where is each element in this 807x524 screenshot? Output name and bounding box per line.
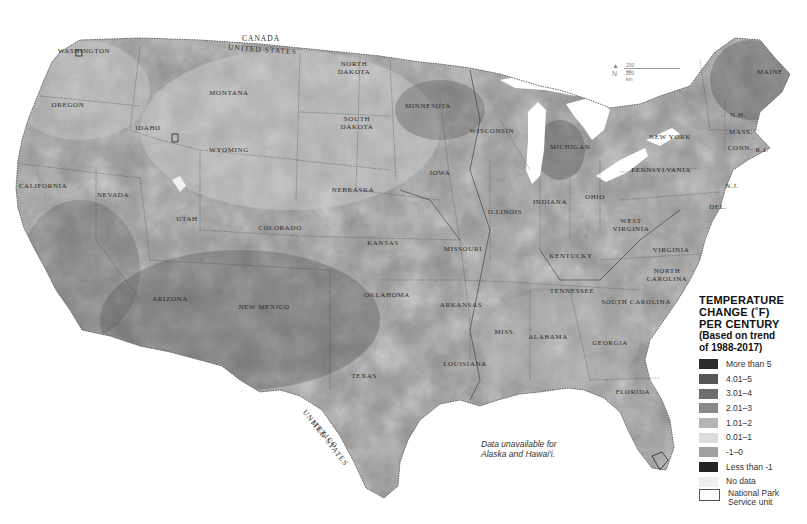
state-label: NEW MEXICO: [238, 303, 289, 311]
state-label: R.I.: [756, 146, 769, 154]
state-label: TEXAS: [351, 372, 377, 380]
legend-swatch: [699, 374, 718, 384]
state-label: MAINE: [757, 68, 783, 76]
state-label: IOWA: [430, 169, 451, 177]
legend-swatch: [699, 359, 718, 369]
state-label: LOUISIANA: [443, 360, 487, 368]
state-label: INDIANA: [533, 198, 567, 206]
us-temperature-map: [0, 0, 807, 524]
legend-item: More than 5: [699, 357, 807, 372]
legend-swatch: [699, 433, 718, 443]
state-label: VIRGINIA: [653, 246, 690, 254]
state-label: CALIFORNIA: [19, 182, 67, 190]
state-label: IDAHO: [135, 124, 161, 132]
state-label: PENNSYLVANIA: [631, 166, 691, 174]
state-label: MISS.: [494, 328, 515, 336]
state-label: MISSOURI: [444, 245, 482, 253]
state-label: NEBRASKA: [332, 186, 375, 194]
note-line-1: Data unavailable for: [481, 439, 557, 449]
state-label: MASS.: [729, 128, 753, 136]
state-label: COLORADO: [258, 224, 302, 232]
legend-items: More than 54.01–53.01–42.01–31.01–20.01–…: [699, 357, 807, 513]
data-unavailable-note: Data unavailable for Alaska and Hawai'i.: [481, 439, 557, 459]
legend-swatch: [699, 418, 718, 428]
legend-item: 4.01–5: [699, 372, 807, 387]
legend-label: More than 5: [726, 360, 771, 369]
legend-subtitle-line-2: of 1988-2017): [699, 342, 807, 354]
state-label: WASHINGTON: [58, 47, 111, 55]
state-label: OKLAHOMA: [364, 291, 410, 299]
legend-swatch: [699, 447, 718, 457]
legend-label: 3.01–4: [726, 389, 752, 398]
state-label: N.H.: [730, 111, 746, 119]
state-label: NORTH DAKOTA: [338, 60, 371, 76]
state-label: WEST VIRGINIA: [613, 217, 650, 233]
scale-km: 200 km: [626, 70, 634, 82]
state-label: UTAH: [176, 215, 197, 223]
legend-item: 0.01–1: [699, 430, 807, 445]
legend-label: -1–0: [726, 448, 743, 457]
legend-label: No data: [726, 477, 756, 486]
state-label: N.J.: [725, 182, 739, 190]
state-label: NEVADA: [97, 191, 129, 199]
state-label: NORTH CAROLINA: [647, 267, 688, 283]
state-label: OREGON: [52, 101, 85, 109]
legend-label: 1.01–2: [726, 419, 752, 428]
legend-swatch: [699, 462, 718, 472]
north-arrow-icon: ▲: [612, 62, 619, 69]
legend-item: -1–0: [699, 445, 807, 460]
state-label: MICHIGAN: [550, 143, 591, 151]
north-label: N: [612, 70, 617, 77]
legend-swatch: [699, 403, 718, 413]
state-label: WISCONSIN: [470, 127, 514, 135]
state-label: NEW YORK: [649, 133, 691, 141]
state-label: TENNESSEE: [550, 287, 595, 295]
legend-title-line-1: TEMPERATURE: [699, 294, 807, 306]
legend-label: National Park Service unit: [728, 489, 779, 507]
state-label: OHIO: [585, 193, 605, 201]
state-label: MONTANA: [209, 89, 248, 97]
legend-item: No data: [699, 475, 807, 490]
legend-swatch: [699, 389, 718, 399]
state-label: SOUTH CAROLINA: [601, 298, 671, 306]
legend-label: 4.01–5: [726, 375, 752, 384]
legend-label: Less than -1: [726, 463, 773, 472]
legend-item: National Park Service unit: [699, 489, 807, 513]
state-label: GEORGIA: [592, 339, 628, 347]
border-label-canada: CANADA: [242, 34, 280, 43]
legend-swatch: [699, 477, 718, 487]
legend-title-line-3: PER CENTURY: [699, 318, 807, 330]
state-label: ALABAMA: [528, 333, 568, 341]
state-label: CONN.: [728, 144, 753, 152]
legend-label: 0.01–1: [726, 433, 752, 442]
legend-item: 1.01–2: [699, 416, 807, 431]
legend-item: Less than -1: [699, 460, 807, 475]
state-label: DEL.: [709, 203, 727, 211]
state-label: ILLINOIS: [488, 208, 522, 216]
state-label: WYOMING: [209, 146, 249, 154]
legend-subtitle-line-1: (Based on trend: [699, 330, 807, 342]
state-label: ARKANSAS: [440, 301, 483, 309]
legend: TEMPERATURE CHANGE (˚F) PER CENTURY (Bas…: [699, 294, 807, 513]
legend-swatch: [699, 489, 720, 501]
note-line-2: Alaska and Hawai'i.: [481, 449, 557, 459]
state-label: FLORIDA: [616, 388, 651, 396]
state-label: MINNESOTA: [405, 102, 451, 110]
legend-label: 2.01–3: [726, 404, 752, 413]
legend-title-line-2: CHANGE (˚F): [699, 306, 807, 318]
state-label: SOUTH DAKOTA: [341, 115, 374, 131]
state-label: KANSAS: [367, 239, 399, 247]
state-label: ARIZONA: [152, 295, 188, 303]
state-label: KENTUCKY: [549, 252, 592, 260]
scale-line: [624, 68, 680, 69]
legend-item: 3.01–4: [699, 386, 807, 401]
legend-item: 2.01–3: [699, 401, 807, 416]
